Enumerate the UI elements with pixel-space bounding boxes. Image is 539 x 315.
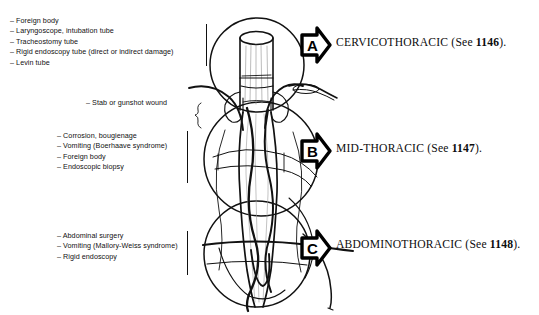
list-item: – Rigid endoscopy tube (direct or indire… — [10, 47, 174, 57]
region-heading-midthoracic: MID-THORACIC (See 1147). — [336, 142, 482, 155]
reference-suffix: ). — [513, 238, 520, 251]
list-item: – Levin tube — [10, 58, 174, 68]
region-marker-b[interactable]: B — [299, 131, 333, 171]
region-name: MID-THORACIC — [336, 142, 424, 155]
esophagus-anatomy-illustration — [185, 2, 360, 313]
region-heading-cervicothoracic: CERVICOTHORACIC (See 1146). — [336, 36, 506, 49]
list-item: – Foreign body — [10, 16, 174, 26]
list-item: – Abdominal surgery — [57, 231, 178, 241]
region-name: ABDOMINOTHORACIC — [336, 238, 462, 251]
bronchus-crossing — [215, 166, 311, 186]
region-name: CERVICOTHORACIC — [336, 36, 448, 49]
reference-prefix: (See — [427, 142, 452, 155]
reference-suffix: ). — [475, 142, 482, 155]
etiology-list-midthoracic: – Corrosion, bougienage – Vomiting (Boer… — [57, 131, 167, 173]
etiology-list-cervicothoracic: – Foreign body – Laryngoscope, intubatio… — [10, 16, 174, 68]
region-heading-abdominothoracic: ABDOMINOTHORACIC (See 1148). — [336, 238, 520, 251]
nerve-arch-right-inner — [293, 89, 334, 100]
region-marker-c[interactable]: C — [299, 228, 333, 268]
etiology-list-abdominothoracic: – Abdominal surgery – Vomiting (Mallory-… — [57, 231, 178, 262]
reference-number: 1147 — [452, 142, 475, 155]
cricoid-ring — [240, 78, 273, 88]
region-marker-b-letter: B — [299, 131, 333, 171]
pharynx-lumen-shading — [245, 45, 268, 104]
list-item: – Laryngoscope, intubation tube — [10, 26, 174, 36]
list-item: – Corrosion, bougienage — [57, 131, 167, 141]
reference-prefix: (See — [465, 238, 490, 251]
list-item: – Endoscopic biopsy — [57, 162, 167, 172]
figure-canvas: – Foreign body – Laryngoscope, intubatio… — [0, 0, 539, 315]
cricoid-shelf — [242, 75, 271, 76]
list-item: – Rigid endoscopy — [57, 252, 178, 262]
region-marker-a[interactable]: A — [299, 25, 333, 65]
reference-prefix: (See — [451, 36, 476, 49]
brace-glyph — [195, 103, 201, 128]
reference-suffix: ). — [499, 36, 506, 49]
reference-number: 1146 — [476, 36, 499, 49]
list-item: – Vomiting (Boerhaave syndrome) — [57, 141, 167, 151]
region-marker-c-letter: C — [299, 228, 333, 268]
region-marker-a-letter: A — [299, 25, 333, 65]
list-item: – Stab or gunshot wound — [86, 98, 167, 108]
reference-number: 1148 — [490, 238, 513, 251]
list-item: – Foreign body — [57, 152, 167, 162]
list-item: – Tracheostomy tube — [10, 37, 174, 47]
etiology-list-stab-wound: – Stab or gunshot wound — [86, 98, 167, 108]
list-item: – Vomiting (Mallory-Weiss syndrome) — [57, 241, 178, 251]
